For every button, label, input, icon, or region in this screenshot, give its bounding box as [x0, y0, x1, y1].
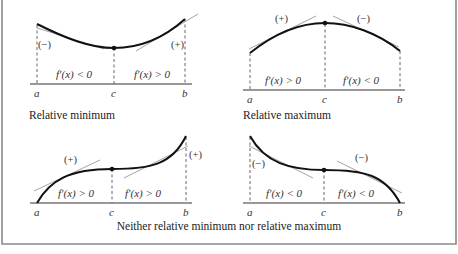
panel-relative-minimum: (−) (+) f′(x) < 0 f′(x) > 0 a c b Relati… [29, 14, 198, 121]
right-slope-sign: (−) [357, 13, 370, 25]
first-derivative-test-figure: (−) (+) f′(x) < 0 f′(x) > 0 a c b Relati… [0, 0, 458, 254]
left-slope-sign: (+) [64, 154, 77, 166]
point-c-label: c [321, 206, 326, 218]
point-a-label: a [34, 206, 40, 218]
point-c-label: c [109, 206, 114, 218]
right-slope-sign: (+) [171, 39, 184, 51]
panel-relative-maximum: (+) (−) f′(x) > 0 f′(x) < 0 a c b Relati… [243, 13, 405, 121]
panel-caption: Relative maximum [243, 109, 331, 121]
right-derivative-label: f′(x) < 0 [338, 187, 375, 200]
left-slope-sign: (−) [38, 39, 51, 51]
point-b-label: b [397, 93, 403, 105]
bottom-caption: Neither relative minimum nor relative ma… [117, 220, 342, 232]
critical-point [322, 168, 327, 173]
right-derivative-label: f′(x) > 0 [125, 187, 162, 200]
point-a-label: a [247, 93, 253, 105]
point-b-label: b [397, 206, 403, 218]
left-derivative-label: f′(x) > 0 [58, 187, 95, 200]
critical-point [110, 167, 115, 172]
function-curve [37, 19, 185, 48]
figure-frame [2, 0, 456, 244]
left-derivative-label: f′(x) < 0 [56, 68, 93, 81]
left-slope-sign: (−) [252, 158, 265, 170]
point-c-label: c [111, 87, 116, 99]
panel-neither-increasing: (+) (+) f′(x) > 0 f′(x) > 0 a c b [30, 136, 202, 218]
critical-point [323, 21, 328, 26]
point-b-label: b [182, 87, 188, 99]
point-c-label: c [322, 93, 327, 105]
point-a-label: a [34, 87, 40, 99]
panel-caption: Relative minimum [29, 109, 115, 121]
right-derivative-label: f′(x) < 0 [343, 74, 380, 87]
right-derivative-label: f′(x) > 0 [134, 68, 171, 81]
panel-neither-decreasing: (−) (−) f′(x) < 0 f′(x) < 0 a c b [243, 136, 405, 218]
tangent-right [124, 146, 188, 178]
point-a-label: a [247, 206, 253, 218]
left-slope-sign: (+) [275, 13, 288, 25]
right-slope-sign: (−) [355, 152, 368, 164]
left-derivative-label: f′(x) < 0 [266, 187, 303, 200]
right-slope-sign: (+) [189, 149, 202, 161]
point-b-label: b [183, 206, 189, 218]
left-derivative-label: f′(x) > 0 [265, 74, 302, 87]
critical-point [112, 46, 117, 51]
